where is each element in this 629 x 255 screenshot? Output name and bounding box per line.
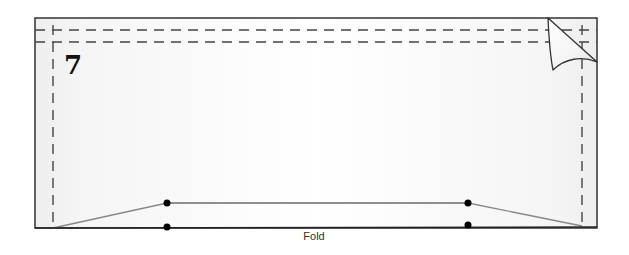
marker-dot [164,200,171,207]
marker-dot [465,200,472,207]
fold-label: Fold [294,231,334,242]
fold-edge-bottom [35,227,597,228]
step-number: 7 [64,52,82,78]
fabric-panel [35,18,597,228]
marker-dot [465,222,472,229]
marker-dot [164,224,171,231]
sewing-diagram: 7 Fold [0,0,629,255]
diagram-canvas [0,0,629,255]
